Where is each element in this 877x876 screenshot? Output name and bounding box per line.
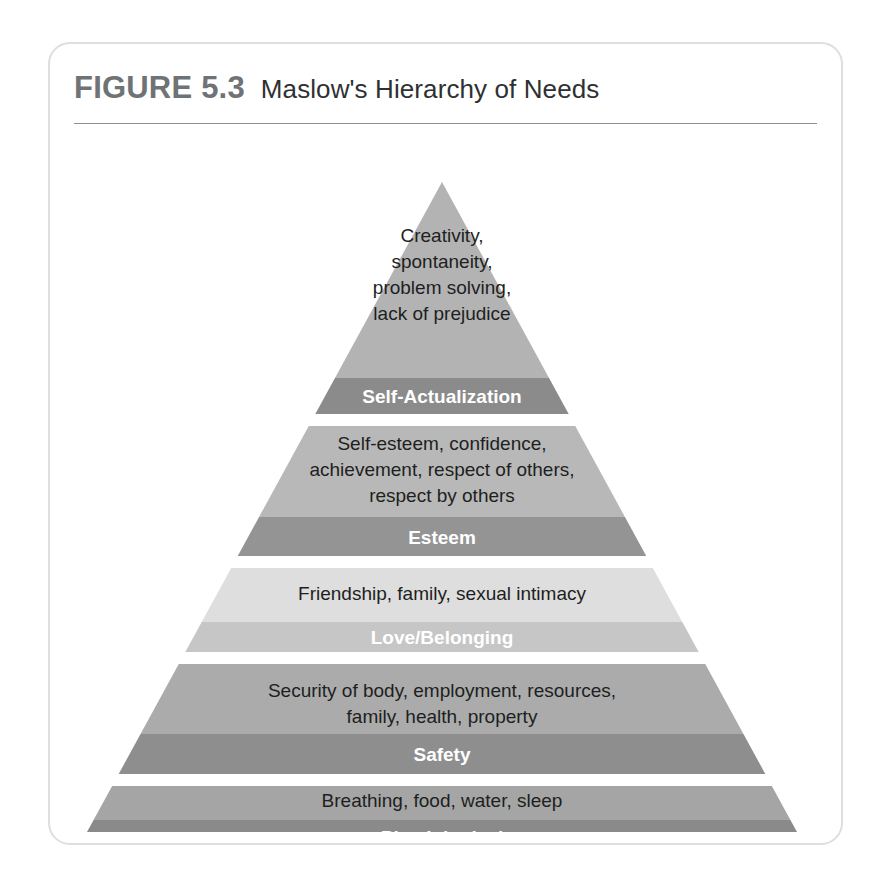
header-divider: [74, 123, 817, 124]
tier-label: Self-Actualization: [362, 386, 521, 407]
tier-description: family, health, property: [347, 706, 538, 727]
pyramid-tier: Self-esteem, confidence,achievement, res…: [238, 426, 647, 556]
figure-title: Maslow's Hierarchy of Needs: [261, 74, 600, 105]
pyramid-tier: Creativity,spontaneity,problem solving,l…: [315, 182, 568, 414]
tier-description: respect by others: [369, 485, 515, 506]
pyramid-tier: Friendship, family, sexual intimacyLove/…: [185, 568, 698, 652]
tier-description: spontaneity,: [391, 251, 492, 272]
tier-description: Breathing, food, water, sleep: [322, 790, 563, 811]
tier-label: Physiological: [381, 827, 503, 832]
pyramid-tier: Breathing, food, water, sleepPhysiologic…: [75, 786, 809, 832]
tier-description: Self-esteem, confidence,: [337, 433, 546, 454]
pyramid-tier: Security of body, employment, resources,…: [119, 664, 766, 774]
tier-label: Esteem: [408, 527, 476, 548]
tier-description: Creativity,: [400, 225, 483, 246]
tier-label: Safety: [413, 744, 470, 765]
pyramid-svg: Creativity,spontaneity,problem solving,l…: [50, 132, 841, 832]
tier-description: Security of body, employment, resources,: [268, 680, 616, 701]
figure-header: FIGURE 5.3 Maslow's Hierarchy of Needs: [74, 70, 817, 126]
maslow-pyramid: Creativity,spontaneity,problem solving,l…: [50, 132, 841, 832]
tier-description: achievement, respect of others,: [309, 459, 574, 480]
tier-description: Friendship, family, sexual intimacy: [298, 583, 586, 604]
tier-description: problem solving,: [373, 277, 511, 298]
tier-label: Love/Belonging: [371, 627, 514, 648]
figure-number: FIGURE 5.3: [74, 70, 245, 106]
figure-card: FIGURE 5.3 Maslow's Hierarchy of Needs C…: [48, 42, 843, 845]
tier-description: lack of prejudice: [373, 303, 510, 324]
